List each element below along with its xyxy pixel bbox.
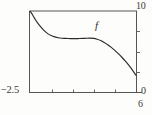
function-graph-figure: 10 −2.5 0 6 f [0,0,152,115]
axis-origin-label: 0 [141,86,146,96]
y-axis-max-label: 10 [136,1,145,11]
curve-name-label: f [95,20,98,31]
axis-frame [30,11,143,93]
function-curve-f [30,11,136,75]
plot-canvas [0,0,152,115]
y-axis-ticks [137,32,141,73]
y-axis-min-label: −2.5 [1,85,19,96]
x-axis-max-label: 6 [138,99,143,109]
